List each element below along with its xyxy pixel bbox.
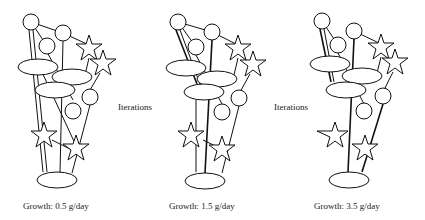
node-circle [375,88,391,104]
figure-2-network [166,14,266,189]
diagram-canvas [0,0,425,220]
node-circle [231,90,247,106]
node-circle [82,89,98,105]
node-circle [188,39,204,55]
node-circle [346,23,362,39]
node-circle [356,103,372,119]
star-icon [352,135,378,160]
base-ellipse [185,173,225,189]
node-circle [214,104,230,120]
base-ellipse [329,172,369,188]
figure-3-network [310,13,408,188]
figure-1-network [18,14,116,188]
iterations-label-2: Iterations [274,102,308,112]
star-icon [76,35,102,60]
node-circle [55,25,71,41]
figure-2-caption: Growth: 1.5 g/day [169,201,235,211]
iterations-label-1: Iterations [118,102,152,112]
star-icon [317,122,348,147]
star-icon [178,122,204,147]
figure-1-caption: Growth: 0.5 g/day [23,201,89,211]
base-ellipse [37,172,77,188]
star-icon [225,35,251,60]
star-icon [368,34,394,59]
star-icon [209,136,235,161]
node-circle [170,14,186,30]
node-circle [23,14,39,30]
node-circle [204,24,220,40]
figure-3-caption: Growth: 3.5 g/day [314,201,380,211]
node-circle [314,13,330,29]
node-circle [330,37,346,53]
node-circle [65,103,81,119]
node-circle [39,38,55,54]
